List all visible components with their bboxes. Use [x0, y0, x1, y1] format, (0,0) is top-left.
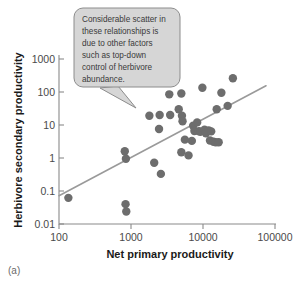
data-point: [184, 151, 192, 159]
regression-trend-line: [59, 86, 266, 196]
callout-tail: [100, 86, 136, 108]
callout-line-2: these relationships is: [82, 27, 158, 36]
y-axis-ticks: [59, 59, 64, 224]
y-tick-label-0.1: 0.1: [40, 185, 55, 197]
data-point: [177, 89, 185, 97]
callout-line-1: Considerable scatter in: [82, 15, 166, 24]
data-point: [217, 89, 225, 97]
y-tick-label-0.01: 0.01: [35, 218, 56, 230]
x-axis-title: Net primary productivity: [106, 248, 234, 260]
data-point: [229, 74, 237, 82]
data-point: [122, 155, 130, 163]
callout-line-4: such as top-down: [82, 51, 147, 60]
data-point: [198, 84, 206, 92]
data-point: [178, 117, 186, 125]
y-tick-label-1000: 1000: [32, 53, 56, 65]
data-point: [207, 127, 215, 135]
y-tick-label-100: 100: [37, 86, 55, 98]
y-tick-label-10: 10: [43, 119, 55, 131]
panel-label: (a): [8, 265, 20, 276]
annotation-callout: Considerable scatter in these relationsh…: [74, 8, 180, 108]
x-tick-label-100000: 100000: [257, 231, 292, 243]
data-point: [155, 111, 163, 119]
data-point: [64, 194, 72, 202]
x-axis-ticks: [59, 224, 275, 229]
data-point: [122, 207, 130, 215]
data-point: [213, 105, 221, 113]
data-point: [188, 137, 196, 145]
data-point: [121, 147, 129, 155]
callout-line-6: abundance.: [82, 75, 125, 84]
data-point: [214, 138, 222, 146]
data-point: [150, 159, 158, 167]
scatter-chart: 1000 100 10 1 0.1 0.01 100 1000 10000 10…: [0, 0, 297, 282]
data-point: [223, 102, 231, 110]
data-point: [121, 200, 129, 208]
callout-line-3: due to other factors: [82, 39, 153, 48]
y-axis-title: Herbivore secondary productivity: [12, 51, 24, 227]
data-point: [193, 118, 201, 126]
x-tick-label-100: 100: [50, 231, 68, 243]
x-tick-label-1000: 1000: [119, 231, 143, 243]
data-point: [177, 148, 185, 156]
data-point: [155, 125, 163, 133]
callout-line-5: control of herbivore: [82, 63, 153, 72]
y-tick-label-1: 1: [49, 152, 55, 164]
data-point: [145, 112, 153, 120]
data-point: [165, 90, 173, 98]
scatter-points-layer: [64, 74, 237, 216]
figure-panel: 1000 100 10 1 0.1 0.01 100 1000 10000 10…: [0, 0, 297, 282]
data-point: [181, 135, 189, 143]
x-tick-label-10000: 10000: [188, 231, 217, 243]
data-point: [157, 170, 165, 178]
data-point: [166, 111, 174, 119]
